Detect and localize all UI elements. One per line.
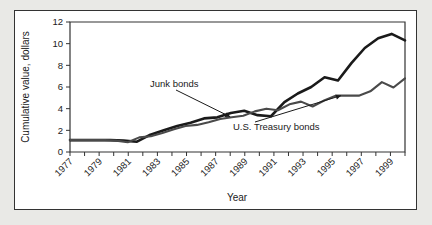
- y-tick-label: 6: [58, 81, 63, 92]
- x-tick-label: 1991: [256, 156, 279, 179]
- x-tick-label: 1987: [198, 156, 221, 179]
- y-axis-title: Cumulative value, dollars: [20, 31, 31, 143]
- y-axis-ticks: 024681012: [52, 16, 70, 157]
- x-axis-title: Year: [227, 192, 248, 203]
- bond-cumulative-value-chart: Cumulative value, dollars Year 024681012…: [0, 0, 432, 225]
- series-line: [70, 78, 405, 142]
- y-tick-label: 8: [58, 60, 63, 71]
- x-tick-label: 1985: [169, 156, 192, 179]
- plot-axes-frame: [70, 22, 405, 152]
- annotation-arrow-line: [176, 90, 230, 117]
- annotation-label: Junk bonds: [150, 78, 199, 89]
- y-tick-label: 4: [58, 103, 63, 114]
- x-tick-label: 1995: [314, 156, 337, 179]
- y-tick-label: 2: [58, 125, 63, 136]
- x-tick-label: 1981: [110, 156, 133, 179]
- y-tick-label: 12: [52, 16, 63, 27]
- y-tick-label: 0: [58, 146, 63, 157]
- x-tick-label: 1983: [140, 156, 163, 179]
- x-axis-tick-labels: 1977197919811983198519871989199119931995…: [52, 156, 395, 179]
- annotation-label: U.S. Treasury bonds: [233, 121, 320, 132]
- x-tick-label: 1999: [373, 156, 396, 179]
- x-tick-label: 1979: [81, 156, 104, 179]
- x-tick-label: 1989: [227, 156, 250, 179]
- y-tick-label: 10: [52, 38, 63, 49]
- x-tick-label: 1997: [343, 156, 366, 179]
- x-tick-label: 1993: [285, 156, 308, 179]
- x-tick-label: 1977: [52, 156, 75, 179]
